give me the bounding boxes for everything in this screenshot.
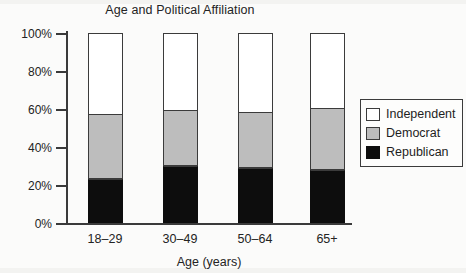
- legend-item-democrat: Democrat: [366, 124, 458, 143]
- legend-item-republican: Republican: [366, 143, 458, 162]
- black-square-swatch-icon: [366, 146, 380, 159]
- x-tick-label-30-49: 30–49: [145, 232, 215, 246]
- segment-republican: [163, 166, 198, 223]
- gray-square-swatch-icon: [366, 127, 380, 140]
- segment-independent: [238, 33, 273, 113]
- segment-democrat: [88, 115, 123, 180]
- bar-65-plus: [310, 33, 345, 223]
- x-tick-label-65-plus: 65+: [292, 232, 362, 246]
- segment-independent: [88, 33, 123, 115]
- x-axis-line: [66, 223, 352, 225]
- segment-republican: [88, 179, 123, 223]
- legend-label-republican: Republican: [386, 146, 449, 159]
- segment-republican: [238, 168, 273, 223]
- y-tick-label-20: 20%: [0, 179, 52, 193]
- bar-18-29: [88, 33, 123, 223]
- bar-30-49: [163, 33, 198, 223]
- legend-label-democrat: Democrat: [386, 127, 440, 140]
- bar-50-64: [238, 33, 273, 223]
- x-tick-label-50-64: 50–64: [220, 232, 290, 246]
- y-tick-label-100: 100%: [0, 27, 52, 41]
- chart-figure: Age and Political Affiliation 100% 80% 6…: [0, 0, 466, 273]
- chart-title: Age and Political Affiliation: [0, 3, 360, 17]
- segment-republican: [310, 170, 345, 223]
- chart-legend: Independent Democrat Republican: [360, 99, 463, 167]
- y-tick-label-0: 0%: [0, 217, 52, 231]
- y-tick-label-40: 40%: [0, 141, 52, 155]
- white-square-swatch-icon: [366, 108, 380, 121]
- segment-democrat: [310, 109, 345, 170]
- segment-democrat: [163, 111, 198, 166]
- segment-independent: [310, 33, 345, 109]
- y-tick-0: [56, 223, 67, 225]
- x-axis-title: Age (years): [66, 255, 352, 269]
- y-tick-label-80: 80%: [0, 65, 52, 79]
- segment-democrat: [238, 113, 273, 168]
- x-tick-label-18-29: 18–29: [70, 232, 140, 246]
- segment-independent: [163, 33, 198, 111]
- plot-area: [66, 33, 352, 223]
- legend-label-independent: Independent: [386, 108, 456, 121]
- legend-item-independent: Independent: [366, 105, 458, 124]
- y-tick-label-60: 60%: [0, 103, 52, 117]
